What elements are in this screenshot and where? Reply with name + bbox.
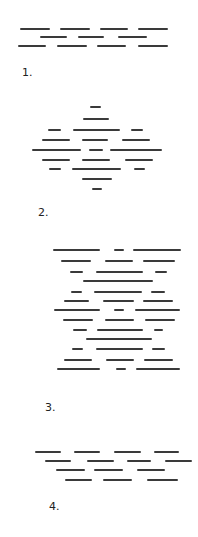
dash-segment [154,451,179,453]
dash-segment [56,469,85,471]
dash-segment [35,451,61,453]
dash-segment [45,460,71,462]
diagram-canvas: 1. 2. 3. 4. [0,0,198,537]
dash-segment [74,451,100,453]
dash-segment [114,451,141,453]
dash-segment [65,479,92,481]
dash-segment [103,479,132,481]
dash-segment [147,479,178,481]
dash-segment [137,469,165,471]
figure-label: 4. [49,501,60,513]
dash-segment [127,460,151,462]
dash-segment [165,460,192,462]
dash-segment [94,469,123,471]
dash-segment [87,460,114,462]
figure-4: 4. [0,0,198,537]
